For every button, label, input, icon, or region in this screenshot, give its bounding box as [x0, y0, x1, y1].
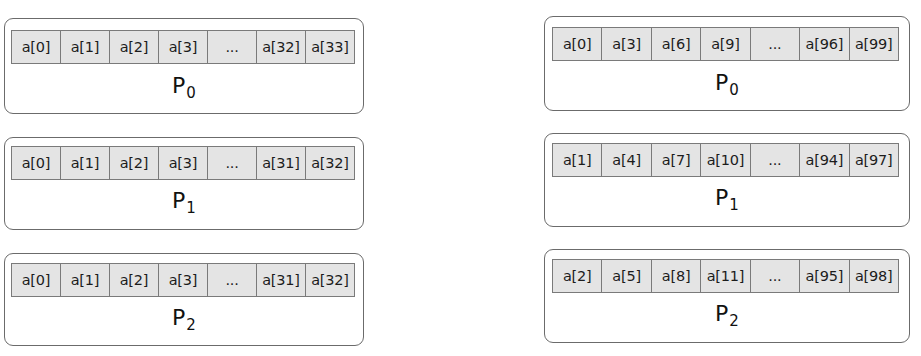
array-cell: a[3] — [159, 147, 208, 179]
array-cell: a[2] — [553, 260, 602, 292]
array-cell: a[8] — [652, 260, 701, 292]
array-cell: a[0] — [12, 31, 61, 63]
array-cell: a[1] — [61, 264, 110, 296]
processor-box-right-p1: a[1] a[4] a[7] a[10] ... a[94] a[97] P1 — [544, 133, 910, 227]
ellipsis-cell: ... — [751, 28, 800, 60]
processor-letter: P — [715, 70, 728, 95]
processor-label: P1 — [545, 185, 909, 214]
array-cell: a[94] — [800, 144, 849, 176]
array-cell: a[5] — [602, 260, 651, 292]
array-cell: a[31] — [257, 264, 306, 296]
array-cell: a[2] — [110, 31, 159, 63]
array-cell: a[96] — [800, 28, 849, 60]
array-cell: a[1] — [61, 147, 110, 179]
array-cell: a[97] — [850, 144, 898, 176]
processor-label: P0 — [545, 70, 909, 99]
array-cell: a[0] — [12, 147, 61, 179]
array-cell: a[32] — [257, 31, 306, 63]
array-cell: a[32] — [306, 264, 354, 296]
array-cell: a[6] — [652, 28, 701, 60]
array-cell: a[1] — [61, 31, 110, 63]
array-cell: a[95] — [800, 260, 849, 292]
array-cell: a[9] — [701, 28, 750, 60]
processor-subscript: 1 — [186, 199, 196, 217]
processor-letter: P — [715, 185, 728, 210]
array-cell: a[3] — [602, 28, 651, 60]
processor-label: P2 — [545, 301, 909, 330]
processor-letter: P — [715, 301, 728, 326]
processor-box-right-p0: a[0] a[3] a[6] a[9] ... a[96] a[99] P0 — [544, 16, 910, 111]
array-cell: a[11] — [701, 260, 750, 292]
array-cells: a[2] a[5] a[8] a[11] ... a[95] a[98] — [552, 259, 899, 293]
ellipsis-cell: ... — [751, 260, 800, 292]
processor-letter: P — [172, 305, 185, 330]
processor-subscript: 0 — [729, 81, 739, 99]
array-cell: a[32] — [306, 147, 354, 179]
array-cells: a[0] a[1] a[2] a[3] ... a[32] a[33] — [11, 30, 355, 64]
array-cell: a[10] — [701, 144, 750, 176]
array-cell: a[0] — [12, 264, 61, 296]
array-cells: a[0] a[1] a[2] a[3] ... a[31] a[32] — [11, 263, 355, 297]
processor-letter: P — [172, 73, 185, 98]
array-cells: a[0] a[3] a[6] a[9] ... a[96] a[99] — [552, 27, 899, 61]
processor-box-left-p2: a[0] a[1] a[2] a[3] ... a[31] a[32] P2 — [4, 253, 364, 346]
array-cells: a[0] a[1] a[2] a[3] ... a[31] a[32] — [11, 146, 355, 180]
array-cell: a[4] — [602, 144, 651, 176]
array-cell: a[3] — [159, 31, 208, 63]
processor-label: P1 — [5, 188, 363, 217]
ellipsis-cell: ... — [208, 31, 257, 63]
array-cell: a[2] — [110, 264, 159, 296]
array-cell: a[7] — [652, 144, 701, 176]
processor-subscript: 1 — [729, 196, 739, 214]
array-cells: a[1] a[4] a[7] a[10] ... a[94] a[97] — [552, 143, 899, 177]
ellipsis-cell: ... — [751, 144, 800, 176]
processor-subscript: 0 — [186, 84, 196, 102]
ellipsis-cell: ... — [208, 147, 257, 179]
processor-subscript: 2 — [729, 312, 739, 330]
array-cell: a[31] — [257, 147, 306, 179]
array-cell: a[1] — [553, 144, 602, 176]
processor-subscript: 2 — [186, 316, 196, 334]
array-cell: a[33] — [306, 31, 354, 63]
processor-box-left-p0: a[0] a[1] a[2] a[3] ... a[32] a[33] P0 — [4, 18, 364, 114]
ellipsis-cell: ... — [208, 264, 257, 296]
array-cell: a[98] — [850, 260, 898, 292]
array-cell: a[0] — [553, 28, 602, 60]
array-cell: a[2] — [110, 147, 159, 179]
processor-label: P0 — [5, 73, 363, 102]
array-cell: a[3] — [159, 264, 208, 296]
array-cell: a[99] — [850, 28, 898, 60]
processor-box-right-p2: a[2] a[5] a[8] a[11] ... a[95] a[98] P2 — [544, 249, 910, 343]
processor-box-left-p1: a[0] a[1] a[2] a[3] ... a[31] a[32] P1 — [4, 137, 364, 230]
processor-label: P2 — [5, 305, 363, 334]
processor-letter: P — [172, 188, 185, 213]
